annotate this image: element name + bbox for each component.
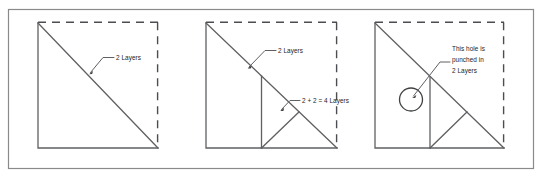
- panel-3-main-diagonal-fold: [375, 23, 504, 148]
- panel-2-leader-line-two-layers: [249, 51, 276, 68]
- panel-3-punched-hole: This hole is punched in 2 Layers: [375, 22, 504, 148]
- folding-layers-figure: 2 Layers 2 Layers 2 + 2 = 4 Layers: [0, 0, 542, 178]
- panel-2-leader-line-four-layers: [282, 101, 301, 110]
- panel-1-main-diagonal-fold: [38, 23, 158, 148]
- panel-3-secondary-diagonal-fold: [430, 112, 467, 148]
- panel-1-two-layers-text: 2 Layers: [116, 54, 141, 62]
- panel-3-hole-text-line-2: punched in: [452, 56, 484, 64]
- panel-2-secondary-diagonal-fold: [262, 112, 300, 148]
- figure-canvas: 2 Layers 2 Layers 2 + 2 = 4 Layers: [0, 0, 542, 178]
- figure-border: [9, 10, 534, 169]
- panel-3-hole-text-line-3: 2 Layers: [452, 67, 477, 75]
- panel-3-hole-text-line-1: This hole is: [452, 45, 485, 52]
- panel-2-main-diagonal-fold: [206, 23, 337, 148]
- panel-1-single-fold: 2 Layers: [38, 22, 158, 148]
- panel-1-leader-line: [91, 58, 115, 73]
- panel-2-double-fold: 2 Layers 2 + 2 = 4 Layers: [206, 22, 349, 148]
- panel-2-two-layers-text: 2 Layers: [278, 47, 303, 55]
- punched-hole-circle: [400, 88, 423, 111]
- panel-2-four-layers-text: 2 + 2 = 4 Layers: [302, 97, 349, 105]
